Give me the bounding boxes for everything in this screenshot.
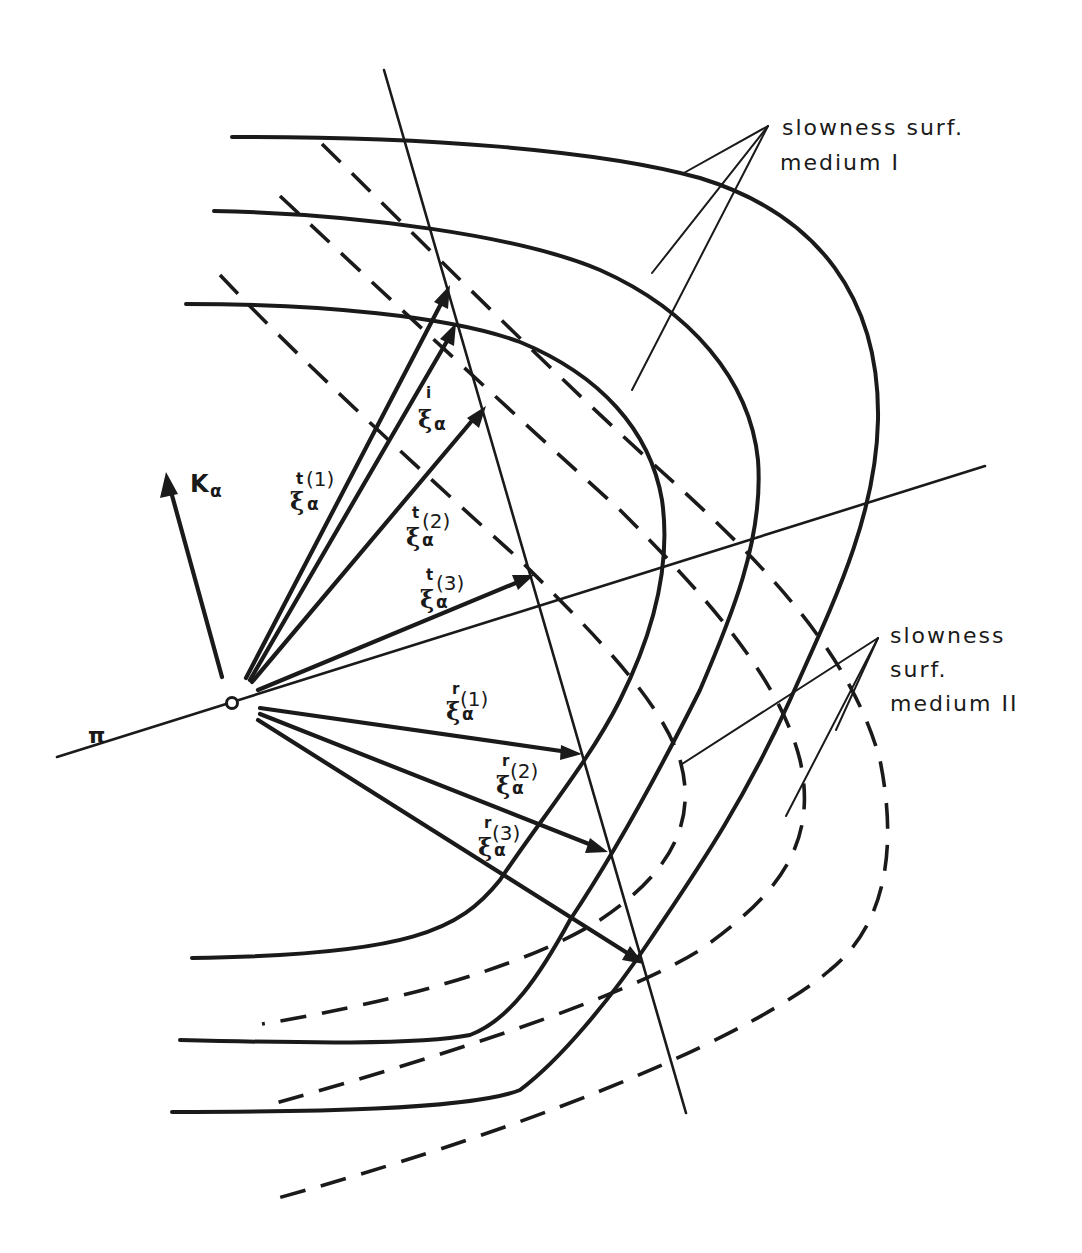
k-alpha-subscript: α bbox=[210, 481, 222, 501]
svg-text:α: α bbox=[307, 494, 319, 514]
svg-text:ξ: ξ bbox=[406, 523, 420, 552]
k-alpha-vector: K α bbox=[160, 470, 222, 677]
svg-text:r: r bbox=[484, 814, 492, 832]
incident-vector-label: i ξ α bbox=[418, 384, 446, 434]
medium-II-surfaces bbox=[220, 144, 888, 1198]
svg-text:α: α bbox=[434, 414, 446, 434]
transmitted-1-label: t (1) ξ α bbox=[290, 467, 334, 516]
svg-text:r: r bbox=[502, 752, 510, 770]
transmitted-2-label: t (2) ξ α bbox=[406, 504, 450, 552]
svg-text:ξ: ξ bbox=[478, 833, 492, 862]
svg-text:ξ: ξ bbox=[446, 697, 460, 726]
medium-I-label-line1: slowness surf. bbox=[782, 115, 964, 140]
reflected-1-label: r (1) ξ α bbox=[446, 680, 488, 726]
reflected-2-label: r (2) ξ α bbox=[496, 752, 538, 800]
arrowhead-icon bbox=[434, 285, 450, 309]
interface-plane-line bbox=[57, 466, 985, 757]
medium-I-surfaces bbox=[172, 137, 878, 1112]
svg-text:α: α bbox=[512, 778, 524, 798]
medium-I-callout: slowness surf. medium I bbox=[632, 115, 964, 390]
slowness-surface-diagram: π K α i ξ α t bbox=[0, 0, 1082, 1253]
arrowhead-icon bbox=[560, 745, 582, 760]
svg-text:t: t bbox=[412, 504, 419, 522]
svg-text:(1): (1) bbox=[306, 467, 334, 491]
medium-I-surface-inner bbox=[186, 304, 664, 958]
svg-text:ξ: ξ bbox=[290, 487, 304, 516]
svg-text:α: α bbox=[462, 704, 474, 724]
arrowhead-icon bbox=[585, 838, 608, 853]
arrowhead-icon bbox=[440, 323, 456, 346]
origin-point bbox=[227, 698, 238, 709]
arrowhead-icon bbox=[160, 472, 178, 498]
svg-text:α: α bbox=[436, 592, 448, 612]
arrowhead-icon bbox=[512, 575, 534, 590]
medium-II-label-line2: surf. bbox=[890, 657, 948, 682]
svg-text:r: r bbox=[452, 680, 460, 698]
medium-II-callout: slowness surf. medium II bbox=[682, 623, 1018, 816]
medium-I-surface-outer bbox=[172, 137, 878, 1112]
svg-text:t: t bbox=[296, 470, 303, 488]
k-alpha-label: K bbox=[190, 470, 210, 498]
medium-II-label-line1: slowness bbox=[890, 623, 1005, 648]
svg-text:i: i bbox=[426, 384, 431, 402]
reflected-3-label: r (3) ξ α bbox=[478, 814, 520, 862]
svg-text:ξ: ξ bbox=[418, 405, 432, 434]
medium-II-surface-inner bbox=[220, 275, 685, 1024]
svg-text:ξ: ξ bbox=[496, 771, 510, 800]
svg-text:α: α bbox=[422, 530, 434, 550]
plane-label: π bbox=[88, 723, 105, 748]
medium-I-label-line2: medium I bbox=[780, 150, 900, 175]
svg-text:t: t bbox=[426, 566, 433, 584]
medium-II-surface-outer bbox=[278, 144, 888, 1198]
reflected-vectors bbox=[258, 708, 644, 964]
medium-II-label-line3: medium II bbox=[890, 691, 1018, 716]
svg-text:α: α bbox=[494, 840, 506, 860]
svg-text:ξ: ξ bbox=[420, 585, 434, 614]
